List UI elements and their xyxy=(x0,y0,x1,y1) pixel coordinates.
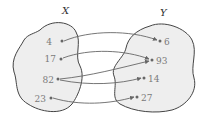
set-y-label: Y xyxy=(160,7,168,18)
y-element: 6 xyxy=(164,37,170,47)
y-element: 27 xyxy=(141,93,153,103)
x-element: 23 xyxy=(35,94,47,104)
set-x-label: X xyxy=(61,5,70,16)
y-element: 14 xyxy=(148,74,160,84)
x-element: 82 xyxy=(43,75,54,85)
y-element: 93 xyxy=(156,56,168,66)
set-x-region xyxy=(13,23,82,112)
x-element: 17 xyxy=(45,54,57,64)
mapping-diagram: X Y 4 17 82 23 6 93 14 27 xyxy=(0,0,204,127)
x-element: 4 xyxy=(46,37,52,47)
